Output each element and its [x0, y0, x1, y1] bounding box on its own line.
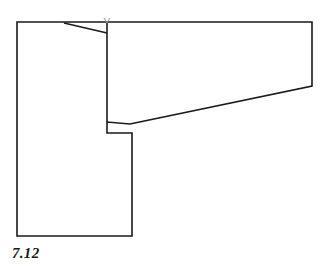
plan-outline-path — [17, 22, 312, 236]
figure-caption: 7.12 — [12, 246, 39, 261]
floor-plan-diagram — [0, 0, 330, 268]
figure-container: 7.12 — [0, 0, 330, 268]
